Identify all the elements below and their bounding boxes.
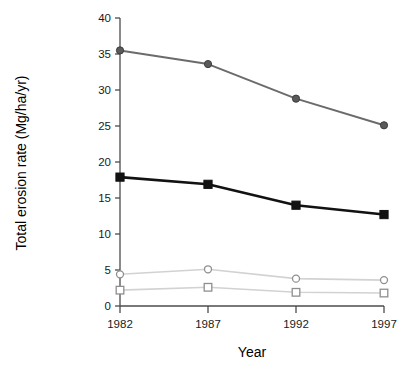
series-open-circle bbox=[117, 266, 388, 284]
series-filled-square bbox=[116, 173, 388, 219]
series-open-square-marker bbox=[292, 289, 300, 297]
series-filled-circle bbox=[116, 47, 387, 129]
series-open-circle-line bbox=[120, 269, 384, 280]
series-open-square-line bbox=[120, 287, 384, 293]
y-axis-tick-label: 25 bbox=[98, 120, 111, 132]
y-axis-tick-label: 20 bbox=[98, 156, 111, 168]
series-filled-circle-marker bbox=[116, 47, 123, 54]
series-filled-circle-marker bbox=[292, 95, 299, 102]
series-open-circle-marker bbox=[205, 266, 212, 273]
x-axis-title: Year bbox=[238, 344, 267, 360]
data-series-layer bbox=[116, 47, 388, 297]
y-axis-tick-label: 30 bbox=[98, 84, 111, 96]
x-axis-tick-label: 1992 bbox=[283, 318, 309, 330]
series-open-circle-marker bbox=[381, 277, 388, 284]
series-open-square bbox=[116, 283, 388, 296]
series-filled-square-marker bbox=[380, 210, 388, 218]
series-filled-circle-line bbox=[120, 50, 384, 125]
y-axis: 0510152025303540 bbox=[98, 12, 120, 312]
chart-canvas: 0510152025303540 1982198719921997 Total … bbox=[0, 0, 410, 367]
series-filled-circle-marker bbox=[204, 60, 211, 67]
y-axis-tick-label: 10 bbox=[98, 228, 111, 240]
series-open-square-marker bbox=[204, 283, 212, 291]
y-axis-title: Total erosion rate (Mg/ha/yr) bbox=[13, 75, 29, 250]
y-axis-tick-label: 40 bbox=[98, 12, 111, 24]
y-axis-tick-label: 5 bbox=[105, 264, 111, 276]
x-axis-tick-label: 1987 bbox=[195, 318, 221, 330]
x-axis-tick-label: 1982 bbox=[107, 318, 133, 330]
series-open-square-marker bbox=[116, 286, 124, 294]
x-axis-tick-label: 1997 bbox=[371, 318, 397, 330]
series-filled-square-marker bbox=[204, 180, 212, 188]
series-filled-square-marker bbox=[116, 173, 124, 181]
series-open-circle-marker bbox=[117, 271, 124, 278]
y-axis-tick-label: 15 bbox=[98, 192, 111, 204]
erosion-rate-line-chart: 0510152025303540 1982198719921997 Total … bbox=[0, 0, 410, 367]
series-filled-square-line bbox=[120, 177, 384, 214]
series-open-square-marker bbox=[380, 289, 388, 297]
series-open-circle-marker bbox=[293, 275, 300, 282]
series-filled-square-marker bbox=[292, 201, 300, 209]
series-filled-circle-marker bbox=[380, 122, 387, 129]
y-axis-tick-label: 35 bbox=[98, 48, 111, 60]
y-axis-tick-label: 0 bbox=[105, 300, 111, 312]
x-axis: 1982198719921997 bbox=[107, 306, 397, 330]
